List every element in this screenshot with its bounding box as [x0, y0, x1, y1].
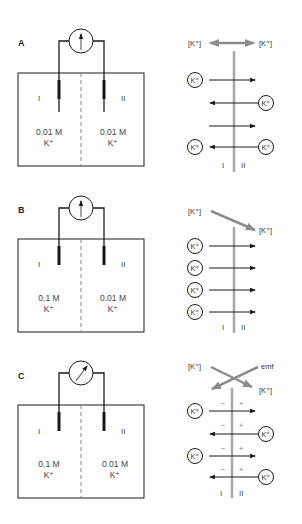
panel-b: B I II 0.1 M K⁺ 0.01 M K⁺ — [18, 196, 144, 332]
electrode-right — [103, 246, 106, 265]
side-label-I: I — [220, 489, 222, 498]
conc-label-right: [K⁺] — [259, 226, 272, 235]
minus-sign: − — [221, 421, 226, 430]
conc-label-right: [K⁺] — [259, 39, 272, 48]
ion-label: K⁺ — [261, 473, 270, 482]
right-concentration: 0.01 M — [100, 293, 126, 303]
wire-right — [93, 208, 104, 264]
panel-label-c: C — [18, 371, 25, 381]
right-concentration: 0.01 M — [102, 459, 128, 469]
conc-label-left: [K⁺] — [188, 207, 201, 216]
ion-label: K⁺ — [190, 308, 199, 317]
flux-diagram-c: [K⁺] emf [K⁺] − + − + − + − + K⁺ K⁺ K⁺ K… — [188, 362, 275, 498]
minus-sign: − — [221, 399, 226, 408]
left-ion: K⁺ — [44, 138, 55, 148]
electrode-right — [103, 80, 106, 99]
ion-label: K⁺ — [190, 452, 199, 461]
side-label-I: I — [222, 323, 224, 332]
ion-label: K⁺ — [190, 242, 199, 251]
left-concentration: 0.01 M — [36, 127, 62, 137]
ion-label: K⁺ — [190, 407, 199, 416]
panel-label-b: B — [18, 205, 25, 215]
compartment-label-I: I — [38, 260, 40, 269]
wire-left — [59, 208, 70, 264]
side-label-II: II — [241, 323, 245, 332]
ion-label: K⁺ — [190, 143, 199, 152]
ion-row: K⁺ — [188, 305, 256, 320]
minus-sign: − — [221, 444, 226, 453]
compartment-label-II: II — [121, 427, 125, 436]
electrode-left — [58, 412, 61, 431]
plus-sign: + — [239, 465, 244, 474]
ion-label: K⁺ — [261, 430, 270, 439]
ion-label: K⁺ — [190, 286, 199, 295]
side-label-II: II — [239, 489, 243, 498]
ion-label: K⁺ — [261, 143, 270, 152]
flux-diagram-a: [K⁺] [K⁺] K⁺ K⁺ K⁺ K⁺ I II — [188, 39, 274, 172]
ion-row: K⁺ — [188, 261, 256, 276]
minus-sign: − — [221, 465, 226, 474]
left-ion: K⁺ — [44, 304, 55, 314]
ion-label: K⁺ — [261, 99, 270, 108]
compartment-label-I: I — [38, 427, 40, 436]
compartment-label-II: II — [121, 260, 125, 269]
conc-label-left: [K⁺] — [188, 362, 201, 371]
plus-sign: + — [239, 444, 244, 453]
side-label-II: II — [241, 161, 245, 170]
ion-row: K⁺ — [188, 239, 256, 254]
panel-c: C I II 0.1 M K⁺ 0.01 M K⁺ — [18, 361, 144, 498]
right-concentration: 0.01 M — [100, 127, 126, 137]
wire-left — [59, 41, 70, 112]
panel-label-a: A — [18, 38, 25, 48]
ion-label: K⁺ — [190, 76, 199, 85]
right-ion: K⁺ — [110, 470, 121, 480]
compartment-label-II: II — [121, 94, 125, 103]
voltmeter-deflected-icon — [69, 361, 93, 385]
left-ion: K⁺ — [44, 470, 55, 480]
wire-right — [93, 41, 104, 112]
flux-diagram-b: [K⁺] [K⁺] K⁺ K⁺ K⁺ K⁺ I II — [188, 207, 273, 333]
wire-left — [59, 373, 70, 431]
plus-sign: + — [239, 421, 244, 430]
right-ion: K⁺ — [108, 304, 119, 314]
ion-label: K⁺ — [190, 264, 199, 273]
conc-label-right: [K⁺] — [259, 386, 272, 395]
wire-right — [93, 373, 104, 431]
plus-sign: + — [239, 399, 244, 408]
left-concentration: 0.1 M — [38, 459, 59, 469]
electrode-left — [58, 80, 61, 99]
ion-row: K⁺ — [188, 283, 256, 298]
conc-label-left: [K⁺] — [188, 39, 201, 48]
side-label-I: I — [222, 161, 224, 170]
electrode-right — [103, 412, 106, 431]
panel-a: A I II 0.01 M K⁺ 0.01 M K⁺ — [18, 29, 144, 166]
voltmeter-icon — [69, 196, 93, 220]
voltmeter-icon — [69, 29, 93, 53]
emf-label: emf — [261, 362, 274, 371]
right-ion: K⁺ — [108, 138, 119, 148]
left-concentration: 0.1 M — [38, 293, 59, 303]
electrode-left — [58, 246, 61, 265]
conc-gradient-arrow — [211, 367, 252, 387]
compartment-label-I: I — [38, 94, 40, 103]
